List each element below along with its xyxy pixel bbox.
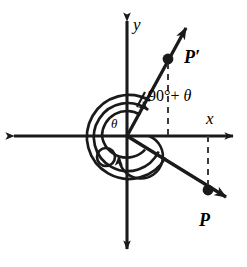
- point-dot-p: [203, 185, 214, 196]
- x-axis-label: x: [206, 110, 214, 127]
- figure-container: y x P′ P θ 90°+ θ: [0, 0, 247, 267]
- point-label-p: P: [199, 211, 210, 229]
- angle-label-ninety-plus-theta: 90°+ θ: [148, 88, 191, 104]
- ray-to-p-prime: [127, 28, 186, 136]
- y-axis-label: y: [133, 16, 141, 33]
- angle-label-theta: θ: [111, 117, 117, 130]
- point-dot-p-prime: [163, 54, 174, 65]
- angle-expression-theta: θ: [183, 87, 191, 104]
- point-label-p-prime: P′: [184, 48, 200, 66]
- angle-expression-prefix: 90°+: [148, 87, 183, 104]
